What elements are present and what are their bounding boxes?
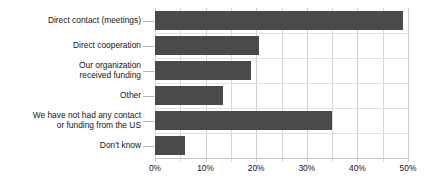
category-label: Our organization received funding bbox=[1, 61, 141, 80]
category-label: Don't know bbox=[1, 141, 141, 151]
x-tick-label: 40% bbox=[349, 163, 366, 173]
category-tick-mark bbox=[143, 96, 154, 97]
bar-chart: Direct contact (meetings)Direct cooperat… bbox=[0, 0, 430, 189]
x-tick-label: 20% bbox=[248, 163, 265, 173]
bar-row bbox=[155, 36, 408, 55]
x-axis-line bbox=[155, 158, 409, 159]
category-tick-mark bbox=[143, 46, 154, 47]
bar-row bbox=[155, 136, 408, 155]
bar bbox=[155, 61, 251, 80]
x-tick-label: 0% bbox=[149, 163, 161, 173]
category-label: We have not had any contact or funding f… bbox=[1, 111, 141, 130]
gridline-vertical bbox=[408, 8, 409, 162]
category-label: Other bbox=[1, 91, 141, 101]
x-tick-label: 50% bbox=[400, 163, 417, 173]
bar-series bbox=[155, 8, 408, 158]
bar-row bbox=[155, 61, 408, 80]
bar bbox=[155, 111, 332, 130]
x-tick-label: 30% bbox=[298, 163, 315, 173]
bar bbox=[155, 136, 185, 155]
bar bbox=[155, 86, 223, 105]
bar-row bbox=[155, 86, 408, 105]
category-axis: Direct contact (meetings)Direct cooperat… bbox=[0, 8, 155, 158]
category-tick-mark bbox=[143, 146, 154, 147]
category-tick-mark bbox=[143, 71, 154, 72]
bar-row bbox=[155, 111, 408, 130]
category-tick-mark bbox=[143, 121, 154, 122]
bar bbox=[155, 11, 403, 30]
category-tick-mark bbox=[143, 21, 154, 22]
plot-area bbox=[155, 8, 408, 158]
bar bbox=[155, 36, 259, 55]
x-tick-label: 10% bbox=[197, 163, 214, 173]
bar-row bbox=[155, 11, 408, 30]
x-axis-tick-labels: 0%10%20%30%40%50% bbox=[0, 163, 430, 183]
category-label: Direct cooperation bbox=[1, 41, 141, 51]
category-label: Direct contact (meetings) bbox=[1, 16, 141, 26]
